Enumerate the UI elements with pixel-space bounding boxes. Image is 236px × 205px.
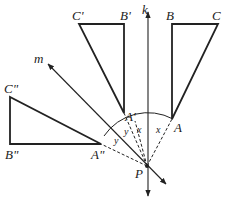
triangle-a1b1c1 bbox=[79, 24, 124, 113]
angle-label-x1: x bbox=[137, 125, 141, 135]
label-c-double-prime: C" bbox=[4, 82, 18, 95]
label-a: A bbox=[174, 121, 182, 134]
label-c-prime: C' bbox=[72, 9, 83, 22]
label-a-prime: A' bbox=[125, 110, 136, 123]
diagram-canvas bbox=[0, 0, 236, 205]
angle-label-x2: x bbox=[156, 125, 160, 135]
dashed-segments bbox=[101, 113, 172, 166]
label-b-double-prime: B" bbox=[5, 148, 18, 161]
label-c: C bbox=[212, 9, 221, 22]
angle-label-y2: y bbox=[114, 136, 118, 146]
triangle-abc bbox=[172, 24, 218, 119]
label-p: P bbox=[135, 167, 143, 180]
label-b: B bbox=[166, 9, 174, 22]
label-m: m bbox=[34, 52, 43, 65]
label-b-prime: B' bbox=[120, 9, 131, 22]
point-p bbox=[145, 164, 149, 168]
label-k: k bbox=[142, 3, 148, 16]
angle-label-y1: y bbox=[124, 127, 128, 137]
reflection-diagram: k m B C A C' B' A' C" B" A" P x x y y bbox=[0, 0, 236, 205]
label-a-double-prime: A" bbox=[91, 148, 104, 161]
